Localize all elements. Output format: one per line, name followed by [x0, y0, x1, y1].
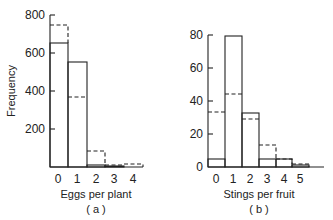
x-axis-label-b: Stings per fruit — [224, 188, 295, 200]
x-axis-label-a: Eggs per plant — [61, 188, 132, 200]
series-expected-a — [50, 25, 143, 167]
figure: 800 600 400 200 Frequency 0 1 2 3 4 Eggs… — [0, 0, 333, 220]
ytick-label-a: 600 — [25, 46, 45, 60]
bar-b-3-dashed — [259, 145, 276, 159]
panel-b: 80 60 40 20 0 0 1 2 3 4 5 Stings p — [190, 28, 324, 215]
bar-b-4-solid — [276, 159, 292, 167]
panel-caption-b: ( b ) — [249, 203, 269, 215]
xtick-label-a: 4 — [130, 172, 137, 186]
bar-b-0-solid — [208, 159, 225, 167]
panel-a: 800 600 400 200 Frequency 0 1 2 3 4 Eggs… — [5, 8, 143, 215]
ytick-label-b: 0 — [196, 160, 203, 174]
series-observed-a — [50, 43, 124, 167]
xtick-label-b: 3 — [264, 172, 271, 186]
ytick-label-a: 800 — [25, 8, 45, 22]
xtick-label-a: 0 — [55, 172, 62, 186]
bar-b-1-solid — [225, 36, 242, 167]
xtick-label-b: 4 — [281, 172, 288, 186]
xtick-label-b: 1 — [230, 172, 237, 186]
ytick-label-b: 20 — [190, 127, 204, 141]
bar-b-2-solid — [242, 113, 259, 167]
ytick-label-b: 40 — [190, 94, 204, 108]
xtick-label-b: 0 — [213, 172, 220, 186]
bar-a-1-solid — [68, 62, 87, 167]
xtick-label-a: 2 — [93, 172, 100, 186]
xtick-label-a: 3 — [111, 172, 118, 186]
y-axis-label-a: Frequency — [5, 65, 17, 117]
bar-b-4-dashed — [276, 159, 292, 164]
ytick-label-a: 200 — [25, 122, 45, 136]
panel-caption-a: ( a ) — [86, 203, 106, 215]
xtick-label-a: 1 — [74, 172, 81, 186]
bar-a-3-solid — [105, 166, 124, 167]
xtick-label-b: 5 — [297, 172, 304, 186]
xtick-label-b: 2 — [247, 172, 254, 186]
bar-a-2-solid — [87, 165, 105, 167]
bar-b-3-solid — [259, 159, 276, 167]
ytick-label-b: 60 — [190, 61, 204, 75]
bar-a-0-solid — [50, 43, 68, 167]
ytick-label-a: 400 — [25, 84, 45, 98]
ytick-label-b: 80 — [190, 28, 204, 42]
bar-b-5-solid — [292, 165, 309, 167]
series-observed-b — [208, 36, 309, 167]
bar-a-0-dashed — [50, 25, 68, 43]
